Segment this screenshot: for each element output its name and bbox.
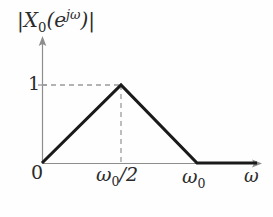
xtick-w0-subscript: 0 <box>198 176 206 191</box>
spectrum-curve <box>42 85 257 163</box>
x-axis-variable-label: ω <box>244 167 259 185</box>
origin-label: 0 <box>31 163 43 182</box>
xtick-w0-omega: ω <box>182 165 198 187</box>
title-part-mid: (e <box>46 8 66 32</box>
title-part-base: |X <box>17 8 38 32</box>
chart-title: |X0(ejω)| <box>17 9 95 34</box>
y-axis-tick-label-1: 1 <box>28 74 40 93</box>
x-axis-tick-label-omega-half: ω0/2 <box>96 165 138 188</box>
x-axis-tick-label-omega-zero: ω0 <box>182 167 205 190</box>
title-part-exponent: jω <box>66 7 80 22</box>
figure-container: |X0(ejω)| 1 0 ω0/2 ω0 ω <box>0 0 273 217</box>
xtick-half-omega: ω <box>96 163 112 185</box>
y-axis <box>39 36 47 164</box>
title-part-end: )| <box>80 8 95 32</box>
xtick-half-divisor: /2 <box>119 163 138 185</box>
